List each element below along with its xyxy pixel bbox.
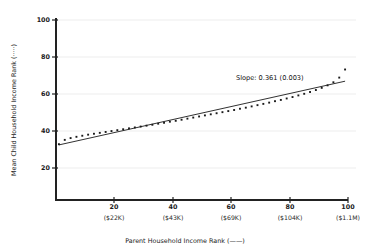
data-point [163, 122, 165, 124]
data-point [134, 127, 136, 129]
data-point [268, 102, 270, 104]
data-point [151, 124, 153, 126]
data-point [321, 87, 323, 89]
data-point [262, 103, 264, 105]
x-tick-label-40: 40 [169, 203, 178, 211]
data-point [309, 91, 311, 93]
data-point [93, 133, 95, 135]
data-point [245, 107, 247, 109]
data-point [105, 131, 107, 133]
y-tick-label-40: 40 [41, 127, 50, 135]
data-point [227, 110, 229, 112]
data-point [111, 130, 113, 132]
data-point [327, 84, 329, 86]
data-point [64, 139, 66, 141]
data-point [99, 132, 101, 134]
x-tick-label-20: 20 [110, 203, 119, 211]
data-point [192, 117, 194, 119]
data-point [75, 136, 77, 138]
data-point [286, 98, 288, 100]
data-point [251, 105, 253, 107]
x-sublabel-69k: ($69K) [221, 214, 242, 221]
x-sublabel-43k: ($43K) [163, 214, 184, 221]
data-point [344, 69, 346, 71]
data-point [292, 96, 294, 98]
data-point [181, 119, 183, 121]
data-point [169, 121, 171, 123]
data-point [58, 143, 60, 145]
data-point [303, 93, 305, 95]
x-tick-label-100: 100 [341, 203, 355, 211]
x-sublabel-104k: ($104K) [278, 214, 303, 221]
y-tick-label-60: 60 [41, 90, 50, 98]
x-tick-label-80: 80 [286, 203, 295, 211]
data-point [87, 134, 89, 136]
data-point [175, 120, 177, 122]
data-point [239, 108, 241, 110]
x-sublabel-22k: ($22K) [104, 214, 125, 221]
data-point [297, 94, 299, 96]
chart-container: 100 80 60 40 20 20 40 60 80 100 ($22K) (… [0, 0, 371, 249]
data-point [70, 137, 72, 139]
data-point [280, 99, 282, 101]
y-axis-title: Mean Child Household Income Rank (·····) [10, 44, 18, 176]
income-mobility-chart: 100 80 60 40 20 20 40 60 80 100 ($22K) (… [0, 0, 371, 249]
x-tick-label-60: 60 [227, 203, 236, 211]
data-point [257, 104, 259, 106]
data-point [274, 100, 276, 102]
data-point [122, 128, 124, 130]
slope-annotation: Slope: 0.361 (0.003) [236, 74, 304, 82]
data-point [204, 114, 206, 116]
data-point [210, 113, 212, 115]
data-point [315, 89, 317, 91]
y-tick-label-80: 80 [41, 53, 50, 61]
data-point [128, 127, 130, 129]
data-point [157, 123, 159, 125]
data-point [233, 109, 235, 111]
x-axis-title: Parent Household Income Rank (——) [125, 237, 245, 245]
data-point [338, 77, 340, 79]
data-point [140, 126, 142, 128]
data-point [146, 125, 148, 127]
x-sublabel-1-1m: ($1.1M) [336, 214, 360, 221]
y-tick-label-20: 20 [41, 164, 50, 172]
data-point [116, 129, 118, 131]
data-point [216, 112, 218, 114]
data-point [221, 111, 223, 113]
data-point [186, 118, 188, 120]
y-tick-label-100: 100 [37, 16, 51, 24]
data-point [198, 116, 200, 118]
data-point [332, 81, 334, 83]
data-point [81, 135, 83, 137]
